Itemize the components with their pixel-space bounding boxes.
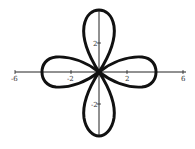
y-tick-label: -2 [91,101,98,109]
rose-curve-chart: -6 -2 2 6 2 -2 [0,0,195,149]
x-tick-label: 2 [125,75,129,83]
x-tick-label: -2 [67,75,74,83]
x-tick-label: -6 [11,75,18,83]
x-tick-label: 6 [181,75,186,83]
y-tick-label: 2 [93,40,97,48]
